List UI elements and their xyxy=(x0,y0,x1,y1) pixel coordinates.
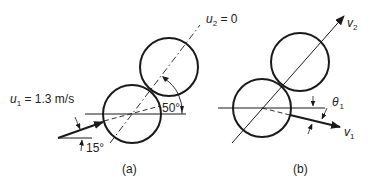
u2-label: u2 = 0 xyxy=(206,12,238,28)
v1-label: v1 xyxy=(344,125,355,141)
angle-50-label: 50° xyxy=(162,101,180,115)
ball-2-circle xyxy=(140,38,198,96)
panel-a: u1 = 1.3 m/s u2 = 0 15° 50° (a) xyxy=(10,12,238,176)
u1-velocity-arrow xyxy=(58,122,103,138)
angle-15-arrow-bottom xyxy=(81,140,82,151)
angle-15-arrow-top xyxy=(75,117,80,129)
v2-label: v2 xyxy=(347,16,358,32)
theta1-arrow-lower xyxy=(308,124,312,134)
theta1-arrow-bottom xyxy=(322,108,327,119)
panel-b-caption: (b) xyxy=(293,162,308,176)
panel-a-caption: (a) xyxy=(122,162,137,176)
ball-2-circle-b xyxy=(271,33,329,91)
theta1-label: θ1 xyxy=(332,95,345,111)
collision-diagram: u1 = 1.3 m/s u2 = 0 15° 50° (a) v2 v1 xyxy=(0,0,368,185)
v1-velocity-arrow xyxy=(290,115,340,127)
u1-label: u1 = 1.3 m/s xyxy=(10,92,74,108)
v1-trajectory-dashed xyxy=(262,108,290,115)
angle-50-arrowhead-bottom xyxy=(180,106,184,113)
angle-15-label: 15° xyxy=(86,141,104,155)
panel-b: v2 v1 θ1 (b) xyxy=(218,16,358,176)
